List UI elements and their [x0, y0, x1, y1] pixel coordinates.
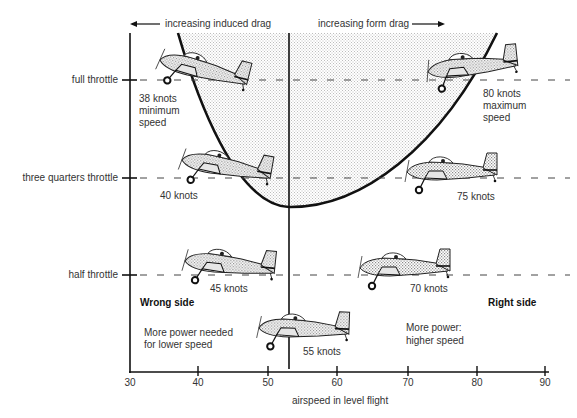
- form-drag-label: increasing form drag: [318, 18, 409, 30]
- x-axis-label: airspeed in level flight: [292, 395, 388, 407]
- x-axis-ticks: [198, 366, 545, 376]
- right-side-title: Right side: [488, 297, 536, 309]
- induced-drag-arrow: [130, 21, 160, 27]
- speed-label-40: 40 knots: [160, 190, 198, 202]
- x-tick-70: 70: [402, 377, 413, 388]
- throttle-label-full: full throttle: [0, 74, 118, 85]
- right-side-line2: higher speed: [406, 335, 464, 347]
- x-tick-30: 30: [124, 377, 135, 388]
- throttle-label-three-quarters: three quarters throttle: [0, 172, 118, 183]
- x-tick-80: 80: [471, 377, 482, 388]
- speed-label-75: 75 knots: [457, 191, 495, 203]
- speed-label-70: 70 knots: [410, 283, 448, 295]
- speed-label-55: 55 knots: [303, 346, 341, 358]
- speed-label-38: 38 knots minimum speed: [139, 93, 180, 129]
- x-tick-60: 60: [331, 377, 342, 388]
- x-tick-50: 50: [262, 377, 273, 388]
- wrong-side-line2: for lower speed: [144, 339, 212, 351]
- wrong-side-title: Wrong side: [140, 297, 194, 309]
- throttle-label-half: half throttle: [0, 269, 118, 280]
- right-side-line1: More power:: [406, 322, 462, 334]
- speed-label-80: 80 knots maximum speed: [483, 88, 526, 124]
- form-drag-arrow: [412, 21, 445, 27]
- speed-label-45: 45 knots: [210, 283, 248, 295]
- power-curve-diagram: [0, 0, 577, 418]
- induced-drag-label: increasing induced drag: [165, 18, 271, 30]
- wrong-side-line1: More power needed: [144, 327, 233, 339]
- aircraft-75-knots: [405, 153, 497, 193]
- x-tick-40: 40: [192, 377, 203, 388]
- x-tick-90: 90: [539, 377, 550, 388]
